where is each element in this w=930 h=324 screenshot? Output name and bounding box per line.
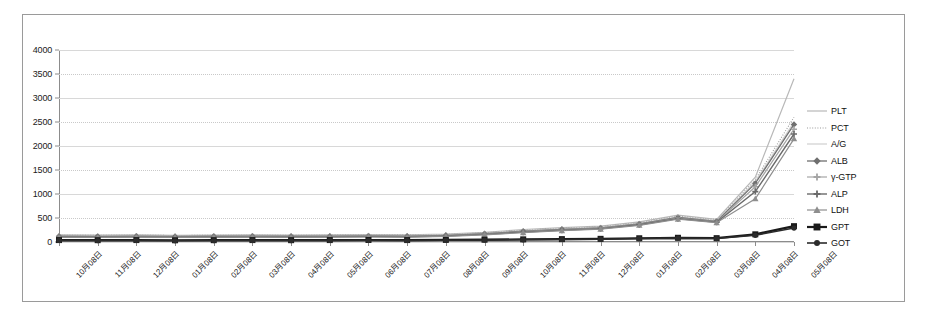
legend-swatch-icon xyxy=(806,155,828,167)
legend-label: γ-GTP xyxy=(831,172,857,182)
x-axis-tick-label: 03月08日 xyxy=(730,248,762,280)
x-axis-tick-label: 10月08日 xyxy=(537,248,569,280)
series-line xyxy=(59,139,794,238)
data-point xyxy=(289,238,294,243)
legend-item-plt[interactable]: PLT xyxy=(806,103,901,120)
data-point xyxy=(753,233,758,238)
legend-swatch-icon xyxy=(806,188,828,200)
x-axis-tick-label: 05月08日 xyxy=(344,248,376,280)
data-point xyxy=(714,236,719,241)
x-axis-tick-mark xyxy=(794,242,795,246)
data-point xyxy=(443,238,448,243)
x-axis-labels: 10月08日11月08日12月08日01月08日02月08日03月08日04月0… xyxy=(59,246,794,306)
x-axis-tick-label: 11月08日 xyxy=(111,248,142,279)
chart-screenshot: 05001000150020002500300035004000 10月08日1… xyxy=(0,0,930,324)
legend-label: ALP xyxy=(831,189,848,199)
y-axis-tick-label: 500 xyxy=(38,214,52,223)
series-layer xyxy=(59,50,794,242)
series-line xyxy=(59,134,794,237)
legend-label: GOT xyxy=(831,238,850,248)
legend-item-alp[interactable]: ALP xyxy=(806,186,901,203)
y-axis-tick-label: 3000 xyxy=(33,94,52,103)
series-alb xyxy=(56,121,797,239)
data-point xyxy=(366,238,371,243)
x-axis-tick-label: 04月08日 xyxy=(769,248,801,280)
series-line xyxy=(59,129,794,237)
x-axis-tick-label: 07月08日 xyxy=(421,248,453,280)
data-point xyxy=(405,238,410,243)
data-point xyxy=(327,238,332,243)
x-axis-tick-label: 01月08日 xyxy=(653,248,685,280)
x-axis-tick-label: 12月08日 xyxy=(614,248,646,280)
legend-item-got[interactable]: GOT xyxy=(806,235,901,252)
series-line xyxy=(59,79,794,235)
legend-swatch-icon xyxy=(806,237,828,249)
legend-swatch-icon xyxy=(806,221,828,233)
x-axis-tick-label: 12月08日 xyxy=(150,248,182,280)
legend-item-pct[interactable]: PCT xyxy=(806,120,901,137)
data-point xyxy=(134,238,139,243)
data-point xyxy=(598,237,603,242)
y-axis-tick-label: 3500 xyxy=(33,70,52,79)
series-gtp xyxy=(56,126,797,240)
data-point xyxy=(95,238,100,243)
legend-swatch-icon xyxy=(806,105,828,117)
data-point xyxy=(675,236,680,241)
y-axis-tick-label: 4000 xyxy=(33,46,52,55)
data-point xyxy=(250,238,255,243)
legend-swatch-icon xyxy=(806,204,828,216)
legend-item-ag[interactable]: A/G xyxy=(806,136,901,153)
series-plt xyxy=(59,79,794,235)
data-point xyxy=(521,237,526,242)
data-point xyxy=(172,238,177,243)
data-point xyxy=(791,225,796,230)
data-point xyxy=(211,238,216,243)
x-axis-tick-label: 01月08日 xyxy=(189,248,221,280)
legend-label: GPT xyxy=(831,222,849,232)
x-axis-tick-label: 06月08日 xyxy=(382,248,414,280)
legend-label: LDH xyxy=(831,205,849,215)
legend-label: ALB xyxy=(831,156,848,166)
x-axis-tick-label: 03月08日 xyxy=(266,248,298,280)
x-axis-tick-label: 04月08日 xyxy=(305,248,337,280)
legend-item-gtp[interactable]: γ-GTP xyxy=(806,169,901,186)
y-axis-tick-label: 2000 xyxy=(33,142,52,151)
chart-frame: 05001000150020002500300035004000 10月08日1… xyxy=(22,14,905,302)
legend-swatch-icon xyxy=(806,171,828,183)
plot-area: 05001000150020002500300035004000 xyxy=(59,50,794,242)
y-axis-tick-label: 1500 xyxy=(33,166,52,175)
series-alp xyxy=(56,131,797,240)
legend-label: PLT xyxy=(831,106,847,116)
x-axis-tick-label: 10月08日 xyxy=(73,248,105,280)
gridline xyxy=(59,242,794,243)
y-axis-tick-label: 1000 xyxy=(33,190,52,199)
legend-item-gpt[interactable]: GPT xyxy=(806,219,901,236)
legend-label: PCT xyxy=(831,123,849,133)
x-axis-tick-label: 09月08日 xyxy=(498,248,530,280)
data-point xyxy=(559,237,564,242)
y-axis-tick-label: 0 xyxy=(47,238,52,247)
legend-item-alb[interactable]: ALB xyxy=(806,153,901,170)
legend-item-ldh[interactable]: LDH xyxy=(806,202,901,219)
x-axis-tick-label: 02月08日 xyxy=(692,248,724,280)
legend-swatch-icon xyxy=(806,122,828,134)
x-axis-tick-label: 02月08日 xyxy=(228,248,260,280)
legend-swatch-icon xyxy=(806,138,828,150)
x-axis-tick-label: 05月08日 xyxy=(808,248,840,280)
chart-legend: PLTPCTA/GALBγ-GTPALPLDHGPTGOT xyxy=(806,103,901,252)
series-ldh xyxy=(56,136,797,240)
data-point xyxy=(637,236,642,241)
y-axis-tick-label: 2500 xyxy=(33,118,52,127)
legend-label: A/G xyxy=(831,139,846,149)
data-point xyxy=(482,237,487,242)
x-axis-tick-label: 08月08日 xyxy=(460,248,492,280)
x-axis-tick-label: 11月08日 xyxy=(575,248,606,279)
data-point xyxy=(56,238,61,243)
data-point xyxy=(752,196,758,202)
